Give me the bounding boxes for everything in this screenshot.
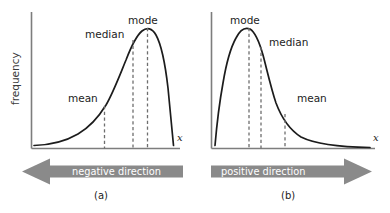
panel-a-mode-label: mode	[128, 14, 158, 26]
skewness-figure: frequency mean median mode x negative di…	[0, 0, 390, 213]
panel-b-arrow-label: positive direction	[221, 166, 305, 177]
panel-b-mode-label: mode	[230, 14, 260, 26]
panel-a-arrow-label: negative direction	[72, 166, 161, 177]
panel-a-median-label: median	[85, 28, 124, 40]
panel-a-density-curve	[34, 29, 174, 146]
panel-b: mode median mean x positive direction (b…	[211, 12, 379, 201]
panel-a-caption: (a)	[94, 190, 108, 201]
panel-b-x-axis-label: x	[373, 132, 379, 143]
panel-a: frequency mean median mode x negative di…	[9, 12, 183, 201]
panel-a-mean-label: mean	[68, 92, 98, 104]
panel-a-x-axis-label: x	[177, 132, 183, 143]
panel-b-mean-label: mean	[297, 92, 327, 104]
panel-b-caption: (b)	[281, 190, 295, 201]
panel-b-median-label: median	[269, 36, 308, 48]
panel-a-y-axis-label: frequency	[9, 52, 21, 105]
